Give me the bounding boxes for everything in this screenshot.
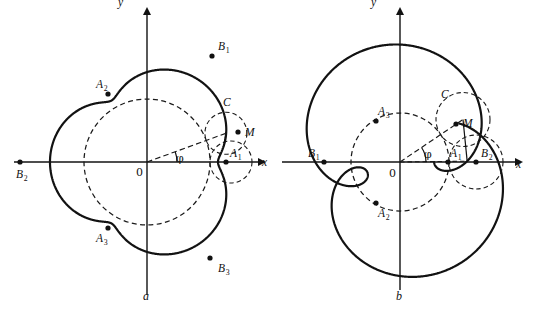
panel-b-point-b2 [473, 159, 478, 164]
panel-a-label-a3: A3 [95, 232, 108, 247]
panel-b-x-axis-label: x [515, 158, 522, 170]
panel-a-group: yx0φA1A2A3B1B2B3CMa [14, 0, 268, 303]
figure-root: yx0φA1A2A3B1B2B3CMa yx0φA1A2A3B1B2CMb [0, 0, 534, 316]
panel-a-point-m [235, 129, 240, 134]
panel-b-label-c: C [441, 88, 449, 100]
panel-a-x-axis-label: x [261, 156, 268, 168]
panel-a-point-b2 [17, 159, 22, 164]
panel-a-point-b3 [207, 255, 212, 260]
panel-a-y-axis-label: y [117, 0, 124, 9]
panel-a-angle-label: φ [176, 152, 184, 165]
panel-b-point-m [453, 121, 458, 126]
panel-a-label-m: M [244, 126, 256, 138]
panel-a-label-b3: B3 [218, 262, 230, 277]
panel-a-point-a3 [105, 225, 110, 230]
panel-b-y-axis-label: y [370, 0, 377, 9]
panel-a-label-c: C [223, 96, 231, 108]
panel-b-group: yx0φA1A2A3B1B2CMb [282, 0, 522, 303]
panel-a-point-b1 [209, 53, 214, 58]
panel-a-label-a2: A2 [95, 78, 108, 93]
panel-a-label-b2: B2 [16, 168, 28, 183]
panel-b-angle-label: φ [424, 148, 432, 161]
panel-a-point-a1 [223, 159, 228, 164]
panel-b-point-a1 [445, 159, 450, 164]
panel-b-label-a2: A2 [377, 207, 390, 222]
epitrochoid-figure-svg: yx0φA1A2A3B1B2B3CMa yx0φA1A2A3B1B2CMb [0, 0, 534, 316]
panel-b-label-m: M [462, 117, 474, 129]
panel-b-label-a3: A3 [377, 105, 390, 120]
panel-b-point-a2 [373, 200, 378, 205]
panel-b-point-b1 [321, 159, 326, 164]
panel-a-origin-label: 0 [136, 166, 143, 179]
panel-a-radius-ray [147, 133, 226, 162]
panel-b-point-a3 [373, 118, 378, 123]
panel-b-caption: b [396, 289, 402, 303]
panel-b-origin-label: 0 [389, 167, 396, 180]
panel-a-caption: a [143, 289, 149, 303]
panel-b-epitrochoid-curve [307, 44, 503, 276]
panel-b-label-a1: A1 [449, 147, 462, 162]
panel-a-label-b1: B1 [218, 40, 230, 55]
